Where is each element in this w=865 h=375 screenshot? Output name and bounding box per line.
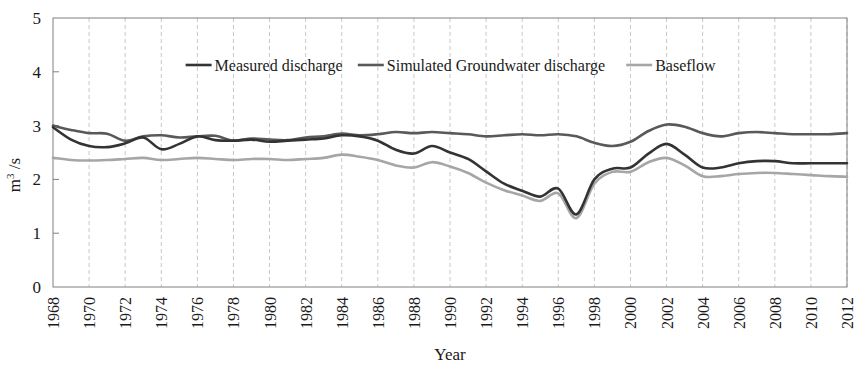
legend-label-measured-discharge: Measured discharge [215, 57, 343, 75]
chart-legend: Measured dischargeSimulated Groundwater … [186, 57, 716, 75]
x-axis-tick-label: 1992 [478, 297, 495, 329]
x-axis-tick-label: 1968 [45, 297, 62, 329]
legend-label-simulated-groundwater-discharge: Simulated Groundwater discharge [387, 57, 605, 75]
x-axis-title: Year [434, 345, 466, 364]
x-axis-tick-label: 2004 [695, 297, 712, 329]
y-axis-title-unit: /s [5, 158, 24, 174]
x-axis-tick-label: 1984 [334, 297, 351, 329]
x-axis-tick-label: 1972 [117, 297, 134, 329]
x-axis-tick-label: 2008 [767, 297, 784, 329]
x-axis-tick-label: 1996 [550, 297, 567, 329]
x-axis-tick-label: 1982 [298, 297, 315, 329]
x-axis-tick-label: 1974 [153, 297, 170, 329]
x-axis-tick-label: 1990 [442, 297, 459, 329]
x-axis-tick-label: 1998 [586, 297, 603, 329]
y-axis-title-base: m [5, 179, 24, 192]
y-axis-tick-label: 4 [33, 63, 42, 82]
x-axis-tick-label: 1994 [514, 297, 531, 329]
x-axis-tick-label: 1988 [406, 297, 423, 329]
legend-label-baseflow: Baseflow [655, 57, 716, 74]
series-line-simulated-groundwater-discharge [53, 124, 847, 146]
x-axis-tick-label: 1976 [189, 297, 206, 329]
chart-figure: 012345 196819701972197419761978198019821… [0, 0, 865, 375]
x-axis-tick-label: 2006 [731, 297, 748, 329]
x-axis-tick-label: 2000 [622, 297, 639, 329]
y-axis-tick-labels-group: 012345 [33, 9, 42, 297]
discharge-line-chart: 012345 196819701972197419761978198019821… [0, 0, 865, 375]
x-axis-tick-label: 1986 [370, 297, 387, 329]
x-axis-tick-labels-group: 1968197019721974197619781980198219841986… [45, 297, 856, 329]
svg-text:m3 /s: m3 /s [4, 158, 24, 192]
y-axis-tick-label: 2 [33, 170, 42, 189]
x-axis-tick-label: 2012 [839, 297, 856, 329]
x-axis-tick-label: 2002 [659, 297, 676, 329]
x-axis-tick-label: 2010 [803, 297, 820, 329]
y-axis-tick-label: 5 [33, 9, 42, 28]
y-axis-tick-label: 1 [33, 224, 42, 243]
y-axis-tick-label: 0 [33, 278, 42, 297]
y-axis-ticks-group [53, 72, 59, 233]
x-axis-tick-label: 1978 [225, 297, 242, 329]
x-axis-tick-label: 1970 [81, 297, 98, 329]
x-axis-tick-label: 1980 [262, 297, 279, 329]
y-axis-title: m3 /s [4, 158, 24, 192]
y-axis-tick-label: 3 [33, 117, 42, 136]
